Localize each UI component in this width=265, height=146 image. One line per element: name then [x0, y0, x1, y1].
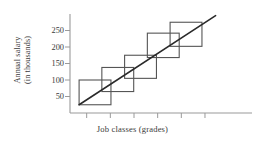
x-axis-ticks [87, 113, 205, 118]
grade-range-box-4 [147, 33, 179, 57]
pay-policy-line-segment [79, 16, 216, 105]
x-axis-title: Job classes (grades) [0, 124, 265, 134]
chart-figure: Annual salary (in thousands) 250 200 150… [0, 0, 265, 146]
y-axis-ticks [65, 31, 70, 97]
grade-range-box-3 [125, 55, 157, 78]
pay-policy-line [79, 16, 216, 105]
